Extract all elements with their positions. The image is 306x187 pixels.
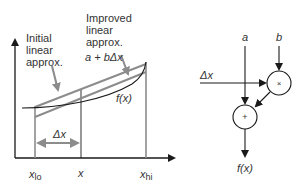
- input-delta-x-label: Δx: [199, 69, 213, 81]
- multiply-node: ×: [267, 71, 291, 95]
- linear-approximation-diagram: Initial linear approx. Improved linear a…: [0, 0, 306, 187]
- delta-x-label: Δx: [52, 128, 66, 140]
- input-a-label: a: [242, 31, 248, 43]
- add-symbol: +: [242, 112, 247, 122]
- improved-approx-label: Improved linear approx.: [86, 12, 135, 48]
- initial-approx-label: Initial linear approx.: [26, 32, 63, 68]
- graph-panel: Initial linear approx. Improved linear a…: [15, 12, 174, 182]
- fx-curve-label: f(x): [116, 92, 132, 104]
- delta-x-arrowhead-left: [36, 138, 46, 148]
- initial-approx-pointer: [52, 66, 58, 90]
- multiply-to-add-line: [256, 92, 270, 106]
- x-hi-label: xhi: [139, 168, 153, 182]
- add-node: +: [233, 105, 257, 129]
- x-lo-label: xlo: [28, 168, 42, 182]
- input-b-label: b: [276, 31, 282, 43]
- output-fx-label: f(x): [237, 162, 253, 174]
- multiply-symbol: ×: [277, 79, 282, 88]
- improved-approx-formula: a + bΔx: [85, 51, 123, 63]
- x-label: x: [77, 167, 84, 179]
- delta-x-arrowhead-right: [70, 138, 80, 148]
- block-diagram-panel: a b Δx × + f(x): [199, 31, 291, 174]
